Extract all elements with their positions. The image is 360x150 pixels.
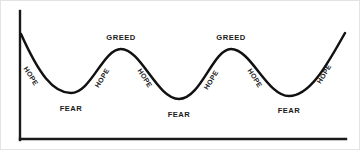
chart-canvas (1, 1, 360, 150)
chart-label-fear-2: FEAR (168, 111, 191, 119)
chart-label-fear-3: FEAR (278, 107, 301, 115)
chart-label-greed-2: GREED (216, 34, 246, 42)
chart-label-fear-1: FEAR (60, 105, 83, 113)
chart-label-greed-1: GREED (106, 34, 136, 42)
emotion-cycle-curve (21, 33, 345, 99)
emotion-cycle-chart: HOPEFEARHOPEGREEDHOPEFEARHOPEGREEDHOPEFE… (0, 0, 360, 150)
